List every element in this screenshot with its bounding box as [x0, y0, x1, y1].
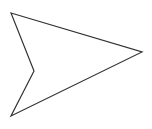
- arrowhead-shape: [11, 13, 142, 116]
- diagram-canvas: [0, 0, 152, 129]
